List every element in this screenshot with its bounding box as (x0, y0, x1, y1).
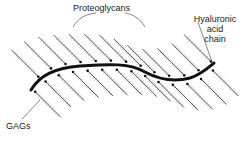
core-protein (84, 34, 111, 61)
link-protein-dot (200, 78, 203, 81)
link-protein-dot (44, 80, 47, 83)
link-protein-dot (34, 90, 37, 93)
link-protein-dot (172, 84, 175, 87)
hyaluronic-label-line1: Hyaluronic (190, 14, 240, 24)
link-protein-dot (144, 75, 147, 78)
hyaluronic-acid-backbone (31, 63, 214, 90)
link-protein-dot (79, 61, 82, 64)
link-protein-dot (110, 59, 113, 62)
proteoglycans-leader (73, 13, 145, 27)
link-protein-dot (37, 75, 40, 78)
hyaluronic-label-line2: acid (190, 24, 240, 34)
link-protein-dot (139, 64, 142, 67)
link-protein-dot (86, 69, 89, 72)
link-protein-dot (57, 74, 60, 77)
link-protein-dot (197, 69, 200, 72)
hyaluronic-label-line3: chain (190, 34, 240, 44)
gags-label: GAGs (6, 121, 31, 131)
link-protein-dot (72, 71, 75, 74)
proteoglycan-diagram: Proteoglycans Hyaluronic acid chain GAGs (0, 0, 243, 142)
core-protein (99, 35, 126, 62)
core-protein (54, 35, 81, 62)
link-protein-dot (168, 74, 171, 77)
gags-leader (22, 100, 40, 119)
link-protein-dot (186, 83, 189, 86)
hyaluronic-acid-label: Hyaluronic acid chain (190, 14, 240, 44)
link-protein-dot (157, 81, 160, 84)
link-protein-dot (50, 67, 53, 70)
proteoglycans-label: Proteoglycans (73, 3, 130, 13)
core-protein (12, 50, 39, 77)
link-protein-dot (101, 69, 104, 72)
link-protein-dot (116, 68, 119, 71)
link-protein-dot (212, 69, 215, 72)
link-protein-dot (94, 60, 97, 63)
link-protein-dot (125, 60, 128, 63)
link-protein-dot (130, 70, 133, 73)
link-protein-dot (183, 74, 186, 77)
link-protein-dot (64, 63, 67, 66)
link-protein-dot (153, 71, 156, 74)
